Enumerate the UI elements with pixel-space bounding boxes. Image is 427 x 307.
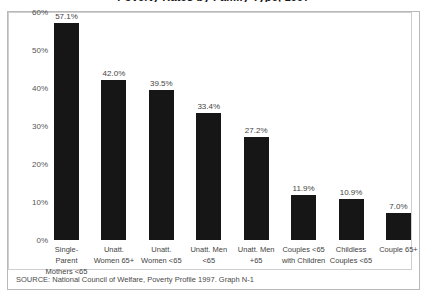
x-axis-label-line: Women 65+ <box>92 255 136 266</box>
y-axis-tick: 40% <box>10 84 48 93</box>
bar-column[interactable]: 33.4% <box>196 12 221 240</box>
x-axis-label: Unatt.Women 65+ <box>92 244 136 270</box>
x-axis-label: Unatt. Men<65 <box>187 244 231 270</box>
bar-value-label: 11.9% <box>293 184 315 193</box>
bar-value-label: 57.1% <box>55 12 78 21</box>
x-axis-label: ChildlessCouples <65 <box>329 244 373 270</box>
y-axis-tick: 20% <box>10 160 48 169</box>
x-axis-label-line: with Children <box>282 255 326 266</box>
plot-area: 57.1%42.0%39.5%33.4%27.2%11.9%10.9%7.0% <box>48 12 417 240</box>
x-axis-label-line: Couples <65 <box>282 244 326 255</box>
bar-rect[interactable] <box>244 137 269 240</box>
x-axis-label-line: Unatt. Men <box>234 244 278 255</box>
x-axis-label: Unatt. Men+65 <box>234 244 278 270</box>
y-axis-tick: 10% <box>10 198 48 207</box>
bar-column[interactable]: 7.0% <box>386 12 411 240</box>
x-axis-label-line: Unatt. Men <box>187 244 231 255</box>
bar-rect[interactable] <box>386 213 411 240</box>
bar-rect[interactable] <box>291 195 316 240</box>
x-axis-label-line: Unatt. <box>139 244 183 255</box>
chart-screenshot: Poverty Rates by Family Type, 1997 60%50… <box>0 0 427 307</box>
bar-value-label: 7.0% <box>389 202 407 211</box>
x-axis-label-line: Couple 65+ <box>376 244 420 255</box>
bar-value-label: 33.4% <box>197 102 220 111</box>
bar-value-label: 42.0% <box>103 69 126 78</box>
y-axis-tick: 30% <box>10 122 48 131</box>
chart-title: Poverty Rates by Family Type, 1997 <box>0 0 427 2</box>
bar-rect[interactable] <box>149 90 174 240</box>
bar-rect[interactable] <box>54 23 79 240</box>
x-axis-label-line: <65 <box>187 255 231 266</box>
bar-column[interactable]: 11.9% <box>291 12 316 240</box>
bar-series: 57.1%42.0%39.5%33.4%27.2%11.9%10.9%7.0% <box>48 12 417 240</box>
x-axis-labels: Single-ParentMothers <65Unatt.Women 65+U… <box>48 244 417 270</box>
x-axis-label: Couple 65+ <box>376 244 420 270</box>
x-axis-label-line: Single-Parent <box>45 244 89 266</box>
x-axis-label-line: Unatt. <box>92 244 136 255</box>
bar-column[interactable]: 57.1% <box>54 12 79 240</box>
bar-column[interactable]: 39.5% <box>149 12 174 240</box>
y-axis-tick: 60% <box>10 8 48 17</box>
y-axis-tick: 50% <box>10 46 48 55</box>
bar-value-label: 39.5% <box>150 79 173 88</box>
bar-column[interactable]: 42.0% <box>101 12 126 240</box>
bar-column[interactable]: 10.9% <box>339 12 364 240</box>
y-axis-tick: 0% <box>10 236 48 245</box>
x-axis-label-line: Childless <box>329 244 373 255</box>
bar-value-label: 27.2% <box>245 126 268 135</box>
bar-rect[interactable] <box>101 80 126 240</box>
x-axis-label: Unatt.Women <65 <box>139 244 183 270</box>
source-note: SOURCE: National Council of Welfare, Pov… <box>16 275 254 284</box>
bar-value-label: 10.9% <box>340 188 363 197</box>
y-axis: 60%50%40%30%20%10%0% <box>10 12 48 244</box>
x-axis-label-line: Couples <65 <box>329 255 373 266</box>
x-axis-label-line: +65 <box>234 255 278 266</box>
x-axis-label: Single-ParentMothers <65 <box>45 244 89 270</box>
bar-column[interactable]: 27.2% <box>244 12 269 240</box>
bar-rect[interactable] <box>196 113 221 240</box>
bar-rect[interactable] <box>339 199 364 240</box>
x-axis-label-line: Women <65 <box>139 255 183 266</box>
x-axis-label: Couples <65with Children <box>282 244 326 270</box>
